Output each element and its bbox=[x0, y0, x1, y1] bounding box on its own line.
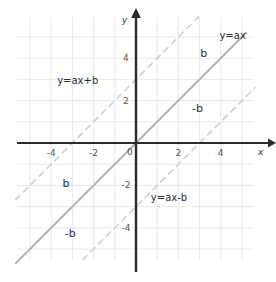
tick-label-x-4: 4 bbox=[218, 148, 224, 158]
annotation-offset-b-lower: b bbox=[63, 177, 70, 190]
tick-label-y-4: 4 bbox=[123, 53, 129, 63]
series-line-y-ax-b bbox=[83, 87, 255, 259]
annotation-eq-y-ax: y=ax bbox=[219, 30, 245, 41]
tick-label-x--2: -2 bbox=[89, 148, 98, 158]
annotation-eq-y-ax-plus-b: y=ax+b bbox=[57, 75, 98, 86]
x-axis-arrowhead bbox=[268, 139, 276, 148]
tick-label-origin: 0 bbox=[127, 147, 133, 157]
annotation-offset-minus-b-upper: -b bbox=[192, 102, 203, 115]
tick-label-x--4: -4 bbox=[47, 148, 56, 158]
annotation-eq-y-ax-minus-b: y=ax-b bbox=[151, 192, 187, 203]
y-axis-arrowhead bbox=[131, 8, 141, 18]
y-axis-label: y bbox=[122, 15, 127, 25]
coordinate-plane-svg bbox=[0, 0, 276, 282]
tick-label-y-2: 2 bbox=[123, 96, 129, 106]
annotation-offset-minus-b-lower: -b bbox=[65, 227, 76, 240]
graph-figure: -4-202442-2-4y=axy=ax+by=ax-bb-bb-b y x bbox=[0, 0, 276, 282]
axes bbox=[17, 8, 276, 272]
tick-label-x-2: 2 bbox=[175, 148, 181, 158]
tick-label-y--4: -4 bbox=[122, 223, 131, 233]
tick-label-y--2: -2 bbox=[122, 180, 131, 190]
x-axis-label: x bbox=[258, 147, 263, 157]
annotation-offset-b-upper: b bbox=[200, 47, 207, 60]
